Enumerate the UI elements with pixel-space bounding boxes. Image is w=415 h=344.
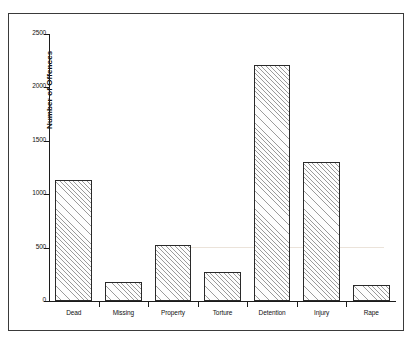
plot-area: Number of Offences 05001000150020002500 … [49,34,396,301]
x-axis-label-detention: Detention [247,309,297,316]
x-axis-label-injury: Injury [297,309,347,316]
x-axis-labels: DeadMissingPropertyTortureDetentionInjur… [49,309,396,323]
x-axis-label-torture: Torture [198,309,248,316]
x-tick-mark [198,302,199,307]
bar [55,180,92,301]
y-tick-label: 1000 [32,189,46,196]
bar [254,65,291,301]
y-tick-label: 1500 [32,136,46,143]
x-tick-mark [99,302,100,307]
y-tick-label: 500 [36,243,46,250]
bar [204,272,241,301]
bar [353,285,390,301]
bars-layer [49,34,396,301]
x-axis-label-missing: Missing [99,309,149,316]
figure-frame: Number of Offences 05001000150020002500 … [8,13,404,331]
bar [105,282,142,301]
x-tick-mark [148,302,149,307]
x-axis-label-rape: Rape [346,309,396,316]
bar [155,245,192,301]
x-tick-mark [297,302,298,307]
x-axis-line [49,301,396,302]
y-tick-label: 2000 [32,82,46,89]
x-axis-label-dead: Dead [49,309,99,316]
y-tick-label: 2500 [32,29,46,36]
x-tick-mark [346,302,347,307]
x-tick-mark [247,302,248,307]
bar [303,162,340,301]
x-axis-label-property: Property [148,309,198,316]
y-tick-label: 0 [43,296,46,303]
